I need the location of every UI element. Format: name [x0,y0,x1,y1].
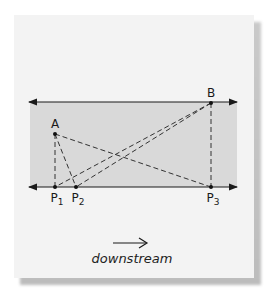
downstream-caption: downstream [92,251,173,266]
point-p2 [74,185,78,189]
path-a-p2 [55,134,76,187]
point-b [209,101,213,105]
label-p1: P1 [51,191,64,207]
label-p3: P3 [207,191,220,207]
dashed-paths [55,103,211,187]
point-a [53,132,57,136]
label-a: A [51,117,59,131]
label-p2: P2 [72,191,85,207]
point-p1 [53,185,57,189]
path-a-p3 [55,134,211,187]
point-p3 [209,185,213,189]
label-b: B [207,86,215,100]
path-b-p1 [55,103,211,187]
path-b-p2 [76,103,211,187]
